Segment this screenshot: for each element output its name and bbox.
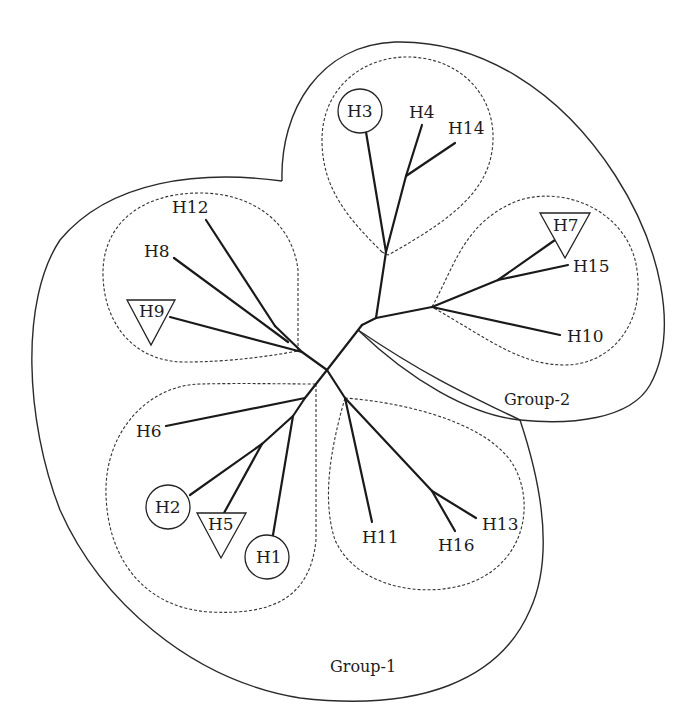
node-label-h4: H4 xyxy=(409,102,435,122)
node-label-h9: H9 xyxy=(139,301,165,321)
node-label-h10: H10 xyxy=(567,326,603,346)
cluster-e-outline xyxy=(328,398,524,590)
group-2-label: Group-2 xyxy=(504,390,570,409)
group-2-outline xyxy=(282,42,664,422)
node-label-h7: H7 xyxy=(553,215,579,235)
node-label-h8: H8 xyxy=(144,241,170,261)
node-label-h14: H14 xyxy=(448,118,484,138)
group-1-label: Group-1 xyxy=(330,657,396,676)
node-label-h11: H11 xyxy=(362,527,398,547)
node-label-h1: H1 xyxy=(256,547,282,567)
node-label-h12: H12 xyxy=(172,197,208,217)
phylogenetic-tree-diagram: H3 H4 H14 H7 H15 H10 H12 H8 H9 H6 H2 H5 … xyxy=(0,0,692,723)
node-label-h2: H2 xyxy=(155,497,181,517)
node-label-h3: H3 xyxy=(347,101,373,121)
cluster-a-outline xyxy=(322,57,493,255)
group-1-outline xyxy=(32,177,543,701)
cluster-b-outline xyxy=(432,196,638,365)
node-label-h13: H13 xyxy=(482,514,518,534)
node-label-h5: H5 xyxy=(208,514,234,534)
node-label-h15: H15 xyxy=(573,256,609,276)
node-label-h6: H6 xyxy=(136,421,162,441)
tree-branches xyxy=(166,125,568,535)
node-markers xyxy=(127,89,590,579)
node-label-h16: H16 xyxy=(438,535,474,555)
